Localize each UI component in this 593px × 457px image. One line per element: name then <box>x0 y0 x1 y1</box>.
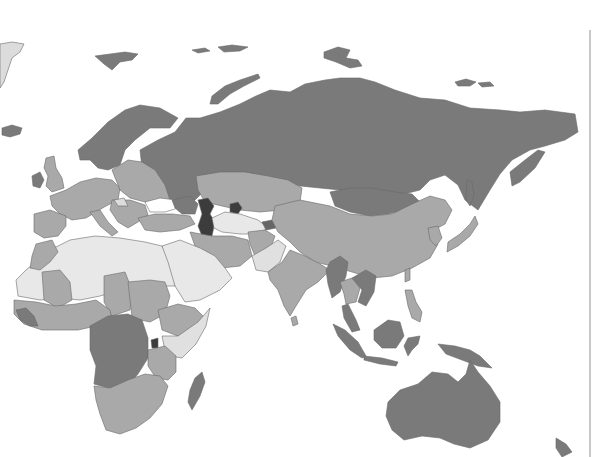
region-greenland-tip[interactable] <box>0 42 24 88</box>
region-iberia[interactable] <box>34 210 66 238</box>
region-turkey[interactable] <box>138 214 195 232</box>
region-philippines[interactable] <box>405 290 422 322</box>
region-japan[interactable] <box>447 216 478 252</box>
region-new-zealand[interactable] <box>556 438 572 457</box>
region-caspian-sea[interactable] <box>198 198 215 236</box>
region-australia[interactable] <box>386 360 500 448</box>
region-severnaya-zemlya[interactable] <box>324 47 362 68</box>
region-taiwan[interactable] <box>405 268 410 282</box>
region-java[interactable] <box>364 356 398 366</box>
page-edge-line <box>589 30 591 457</box>
world-map <box>0 0 593 457</box>
region-franz-josef-land[interactable] <box>192 48 210 53</box>
region-rwanda-burundi[interactable] <box>151 338 158 348</box>
region-new-siberian-islands[interactable] <box>455 79 476 86</box>
region-sri-lanka[interactable] <box>291 316 298 326</box>
region-svalbard[interactable] <box>95 52 138 70</box>
region-sumatra[interactable] <box>333 324 366 358</box>
region-sulawesi[interactable] <box>404 336 420 356</box>
region-borneo[interactable] <box>374 320 404 348</box>
region-franz-josef-land-2[interactable] <box>218 45 248 52</box>
region-iceland[interactable] <box>2 125 22 137</box>
region-malay-peninsula[interactable] <box>342 304 360 332</box>
region-great-britain[interactable] <box>44 156 64 192</box>
region-ireland[interactable] <box>32 172 44 188</box>
region-madagascar[interactable] <box>188 372 205 410</box>
region-new-siberian-islands-2[interactable] <box>478 82 494 87</box>
region-new-guinea[interactable] <box>438 344 492 368</box>
